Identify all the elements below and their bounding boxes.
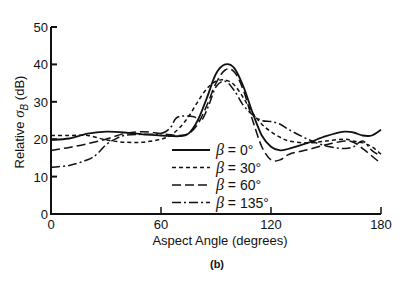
series-line-0 [51, 64, 381, 150]
y-axis-title: Relative σB (dB) [11, 76, 30, 169]
y-axis-title-prefix: Relative [12, 118, 27, 169]
y-tick-label: 40 [34, 57, 48, 72]
x-tick-label: 60 [154, 217, 168, 232]
y-tick-label: 10 [34, 170, 48, 185]
axes: 01020304050060120180 [34, 20, 392, 232]
legend-label: β = 0° [215, 141, 253, 159]
legend-label: β = 60° [215, 176, 261, 194]
x-tick-label: 0 [47, 217, 54, 232]
y-tick-label: 50 [34, 20, 48, 35]
x-tick-label: 120 [260, 217, 282, 232]
legend-label: β = 135° [215, 194, 269, 212]
y-axis-title-suffix: (dB) [12, 76, 27, 104]
y-tick-label: 30 [34, 95, 48, 110]
legend-label: β = 30° [215, 159, 261, 177]
series-line-3 [51, 81, 377, 167]
x-axis-title: Aspect Angle (degrees) [152, 233, 287, 248]
x-tick-label: 180 [370, 217, 392, 232]
figure-caption: (b) [210, 258, 224, 270]
y-tick-label: 20 [34, 132, 48, 147]
legend: β = 0°β = 30°β = 60°β = 135° [172, 141, 269, 212]
chart: 01020304050060120180 β = 0°β = 30°β = 60… [0, 0, 405, 291]
svg-text:Relative σB (dB): Relative σB (dB) [11, 76, 30, 169]
